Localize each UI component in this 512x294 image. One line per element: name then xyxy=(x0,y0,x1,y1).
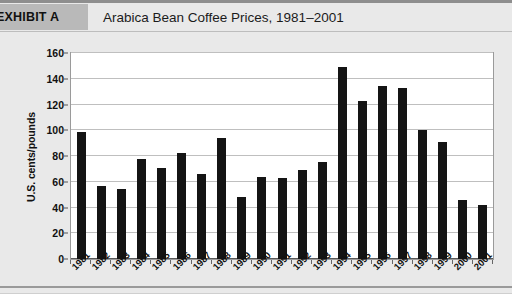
bar-1993 xyxy=(318,162,327,259)
y-tick-mark-60 xyxy=(64,181,68,182)
bar-1995 xyxy=(358,101,367,259)
exhibit-header: EXHIBIT A Arabica Bean Coffee Prices, 19… xyxy=(0,4,512,30)
header-divider xyxy=(0,31,512,32)
y-tick-label-20: 20 xyxy=(38,228,64,239)
bar-1988 xyxy=(217,138,226,259)
x-axis-labels: 1981198219831984198519861987198819891990… xyxy=(70,263,500,293)
y-tick-label-120: 120 xyxy=(38,99,64,110)
bar-1983 xyxy=(117,189,126,259)
exhibit-page: EXHIBIT A Arabica Bean Coffee Prices, 19… xyxy=(0,0,512,294)
bar-1985 xyxy=(157,168,166,259)
bar-1991 xyxy=(278,178,287,259)
bar-1994 xyxy=(338,67,347,259)
bar-1990 xyxy=(257,177,266,259)
bar-chart: U.S. cents/pounds 020406080100120140160 … xyxy=(0,36,512,288)
bar-1997 xyxy=(398,88,407,259)
bar-1987 xyxy=(197,174,206,259)
y-tick-label-140: 140 xyxy=(38,74,64,85)
y-axis-title: U.S. cents/pounds xyxy=(24,52,38,262)
plot-inner xyxy=(71,53,493,259)
y-tick-mark-80 xyxy=(64,156,68,157)
y-tick-label-40: 40 xyxy=(38,202,64,213)
y-tick-mark-120 xyxy=(64,104,68,105)
bar-series xyxy=(71,53,493,259)
page-title: Arabica Bean Coffee Prices, 1981–2001 xyxy=(88,4,512,30)
exhibit-label: EXHIBIT A xyxy=(0,10,59,24)
bar-1986 xyxy=(177,153,186,259)
y-tick-label-0: 0 xyxy=(38,254,64,265)
bar-1996 xyxy=(378,86,387,259)
top-rule xyxy=(0,0,512,3)
bar-1998 xyxy=(418,130,427,259)
bar-1984 xyxy=(137,159,146,259)
bar-1981 xyxy=(77,132,86,259)
plot-area xyxy=(70,52,494,260)
y-tick-mark-20 xyxy=(64,233,68,234)
y-tick-mark-0 xyxy=(64,259,68,260)
y-tick-label-160: 160 xyxy=(38,48,64,59)
y-tick-mark-140 xyxy=(64,78,68,79)
y-tick-mark-40 xyxy=(64,207,68,208)
bar-1992 xyxy=(298,170,307,259)
bar-1982 xyxy=(97,186,106,259)
y-tick-mark-160 xyxy=(64,53,68,54)
y-tick-mark-100 xyxy=(64,130,68,131)
y-tick-label-60: 60 xyxy=(38,177,64,188)
bar-1999 xyxy=(438,142,447,259)
bottom-rule xyxy=(0,286,512,288)
y-axis-title-text: U.S. cents/pounds xyxy=(25,112,37,202)
exhibit-badge: EXHIBIT A xyxy=(0,4,88,30)
y-axis-ticks: 020406080100120140160 xyxy=(38,52,68,260)
y-tick-label-80: 80 xyxy=(38,151,64,162)
y-tick-label-100: 100 xyxy=(38,125,64,136)
